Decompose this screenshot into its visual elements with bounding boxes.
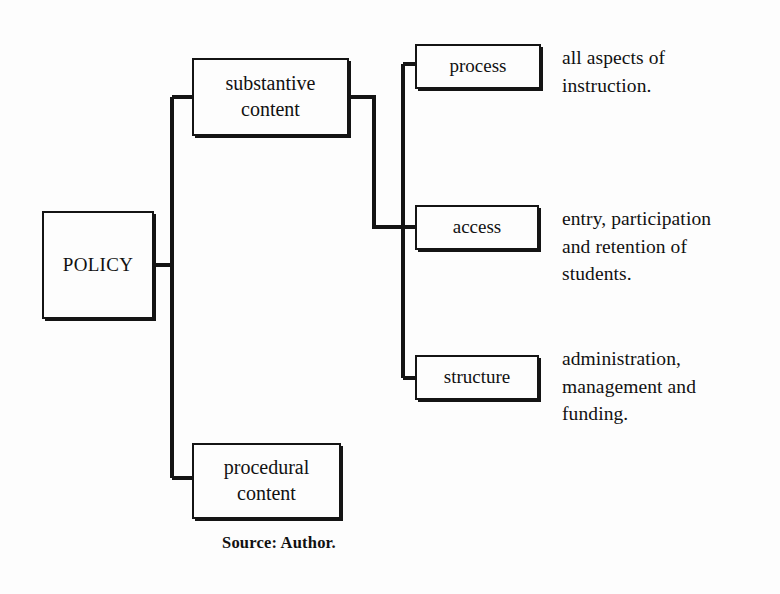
description-access: entry, participation and retention of st… bbox=[562, 205, 768, 288]
description-process: all aspects of instruction. bbox=[562, 44, 762, 99]
node-procedural-content-label: procedural content bbox=[220, 455, 314, 506]
node-access[interactable]: access bbox=[415, 205, 539, 250]
description-structure: administration, management and funding. bbox=[562, 345, 768, 428]
node-substantive-content-label: substantive content bbox=[222, 71, 320, 122]
source-caption: Source: Author. bbox=[222, 533, 336, 553]
node-substantive-content[interactable]: substantive content bbox=[192, 58, 349, 136]
source-caption-label: Source: bbox=[222, 533, 277, 552]
node-process[interactable]: process bbox=[415, 44, 541, 89]
node-access-label: access bbox=[449, 215, 506, 239]
connector-substantive-to-right-trunk bbox=[349, 97, 403, 227]
node-policy[interactable]: POLICY bbox=[42, 211, 154, 319]
node-structure-label: structure bbox=[440, 365, 514, 389]
node-process-label: process bbox=[446, 54, 511, 78]
source-caption-value: Author. bbox=[281, 533, 336, 552]
node-policy-label: POLICY bbox=[59, 253, 137, 277]
node-structure[interactable]: structure bbox=[415, 355, 539, 400]
node-procedural-content[interactable]: procedural content bbox=[192, 443, 341, 519]
diagram-canvas: POLICY substantive content procedural co… bbox=[0, 0, 780, 594]
